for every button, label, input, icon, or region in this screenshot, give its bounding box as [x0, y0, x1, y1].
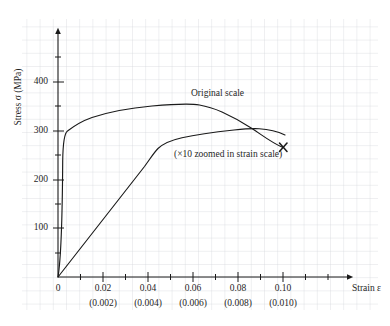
stress-strain-chart: Stress σ (MPa) 400 300 200 100 0 0.02 0.… — [0, 0, 390, 326]
x-tick-label-0.02: 0.02 — [85, 284, 121, 294]
x-tick-label-0.10: 0.10 — [265, 284, 301, 294]
y-tick-label-400: 400 — [22, 77, 48, 87]
grid-background — [22, 19, 378, 310]
annotation-zoomed-scale: (×10 zoomed in strain scale) — [174, 150, 282, 160]
y-axis-title: Stress σ (MPa) — [14, 42, 24, 152]
x-tick-label-0.04: 0.04 — [130, 284, 166, 294]
y-tick-label-200: 200 — [22, 175, 48, 185]
y-tick-label-300: 300 — [22, 126, 48, 136]
annotation-original-scale: Original scale — [191, 89, 244, 99]
chart-canvas — [0, 0, 390, 326]
x-tick-sublabel-0.008: (0.008) — [216, 299, 260, 309]
x-tick-label-0: 0 — [48, 284, 68, 294]
x-tick-sublabel-0.002: (0.002) — [81, 299, 125, 309]
x-tick-label-0.08: 0.08 — [220, 284, 256, 294]
x-tick-label-0.06: 0.06 — [175, 284, 211, 294]
x-tick-sublabel-0.010: (0.010) — [261, 299, 305, 309]
y-tick-label-100: 100 — [22, 223, 48, 233]
x-axis-title: Strain ε — [352, 284, 381, 294]
x-tick-sublabel-0.004: (0.004) — [126, 299, 170, 309]
x-tick-sublabel-0.006: (0.006) — [171, 299, 215, 309]
